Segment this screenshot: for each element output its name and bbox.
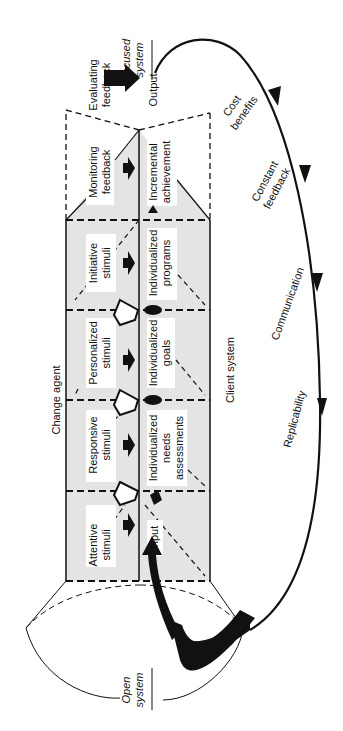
stage-needs-line3: assessments <box>173 415 185 480</box>
open-system-line2: system <box>133 673 145 708</box>
output-label: Output <box>147 73 159 106</box>
stage-attentive-line1: Attentive <box>87 524 99 567</box>
stage-attentive-line2: stimuli <box>100 529 112 560</box>
input-return-arrow <box>170 610 255 671</box>
stage-initiative-line2: stimuli <box>100 247 112 278</box>
stage-incremental-line1: Incremental <box>147 143 159 200</box>
systems-diagram: Change agent Client system Attentive sti… <box>0 0 343 731</box>
stage-programs-line1: Individualized <box>147 230 159 297</box>
stage-needs-line1: Individualized <box>147 415 159 482</box>
client-system-heading: Client system <box>224 337 236 403</box>
stage-personalized-line2: stimuli <box>100 337 112 368</box>
stage-arrows <box>0 0 135 180</box>
stage-goals-line1: Individualized <box>147 320 159 387</box>
stage-programs-line2: programs <box>160 239 172 286</box>
loop-label-communication: Communication <box>269 266 306 342</box>
stage-initiative-line1: Initiative <box>87 243 99 283</box>
stage-personalized-line1: Personalized <box>87 321 99 385</box>
stage-incremental-line2: achievement <box>160 141 172 203</box>
evaluating-line1: Evaluating <box>87 59 99 110</box>
stage-monitoring-line2: feedback <box>100 149 112 194</box>
open-system-line1: Open <box>120 677 132 704</box>
stage-responsive-line1: Responsive <box>87 416 99 473</box>
stage-responsive-line2: stimuli <box>100 429 112 460</box>
stage-goals-line2: goals <box>160 339 172 366</box>
stage-needs-line2: needs <box>160 433 172 463</box>
loop-label-replicability: Replicability <box>281 389 308 449</box>
focused-system-line2: system <box>133 43 145 78</box>
change-agent-heading: Change agent <box>50 365 62 434</box>
stage-monitoring-line1: Monitoring <box>87 146 99 197</box>
